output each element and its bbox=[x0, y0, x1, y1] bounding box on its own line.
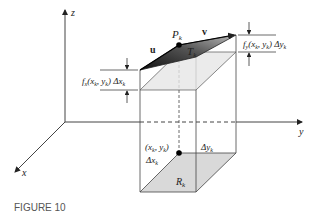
fy-label: fy(xk, yk) Δyk bbox=[243, 39, 287, 50]
vector-v-label: v bbox=[202, 26, 207, 37]
y-axis-label: y bbox=[298, 126, 304, 137]
figure-caption: FIGURE 10 bbox=[14, 202, 66, 213]
pk-label: Pk bbox=[171, 28, 183, 42]
point-pk bbox=[176, 42, 182, 48]
delta-x-label: Δxk bbox=[145, 155, 158, 166]
fx-label: fx(xk, yk) Δxk bbox=[82, 76, 126, 87]
diagram-canvas: z y x u v Pk Tk fx(xk, yk) Δxk fy(xk, yk… bbox=[0, 0, 327, 218]
base-point-label: (xk, yk) bbox=[145, 142, 169, 153]
delta-y-label: Δyk bbox=[200, 142, 213, 153]
vector-u-label: u bbox=[150, 44, 156, 55]
x-axis-label: x bbox=[21, 167, 27, 178]
x-axis bbox=[15, 122, 65, 172]
z-axis-label: z bbox=[70, 7, 75, 18]
point-base bbox=[176, 150, 182, 156]
